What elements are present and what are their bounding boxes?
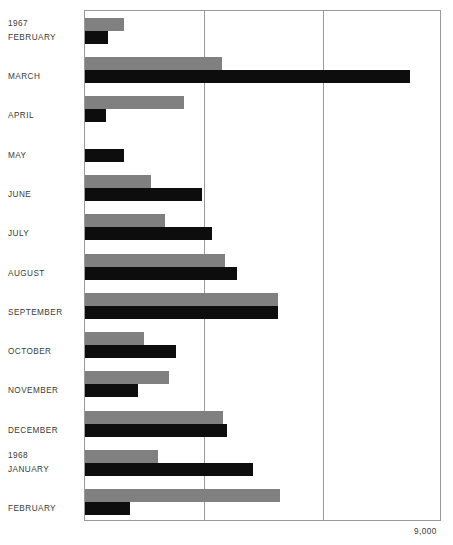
bar-february-gray [85, 489, 280, 502]
bar-april-gray [85, 96, 184, 109]
category-label-2: APRIL [8, 112, 84, 120]
bar-july-black [85, 227, 212, 240]
bar-october-gray [85, 332, 144, 345]
bar-may-black [85, 149, 124, 162]
gridline-6000 [323, 11, 324, 520]
bar-chart: FEBRUARYMARCHAPRILMAYJUNEJULYAUGUSTSEPTE… [0, 0, 453, 545]
bar-july-gray [85, 214, 165, 227]
bar-february-black [85, 502, 130, 515]
bar-november-black [85, 384, 138, 397]
bar-december-gray [85, 411, 223, 424]
bar-april-black [85, 109, 106, 122]
bar-june-gray [85, 175, 151, 188]
bar-october-black [85, 345, 176, 358]
category-label-7: SEPTEMBER [8, 309, 84, 317]
category-label-0: FEBRUARY [8, 34, 84, 42]
category-label-9: NOVEMBER [8, 387, 84, 395]
bar-january-gray [85, 450, 158, 463]
bar-september-black [85, 306, 278, 319]
plot-area [84, 10, 441, 521]
bar-march-black [85, 70, 410, 83]
category-label-5: JULY [8, 230, 84, 238]
category-label-column: FEBRUARYMARCHAPRILMAYJUNEJULYAUGUSTSEPTE… [0, 0, 84, 545]
bar-february-gray [85, 18, 124, 31]
category-label-10: DECEMBER [8, 427, 84, 435]
bar-august-gray [85, 254, 225, 267]
bar-march-gray [85, 57, 222, 70]
category-label-3: MAY [8, 152, 84, 160]
year-label-1968: 1968 [8, 452, 28, 460]
category-label-12: FEBRUARY [8, 505, 84, 513]
category-label-11: JANUARY [8, 466, 84, 474]
bar-june-black [85, 188, 202, 201]
bar-august-black [85, 267, 237, 280]
bar-september-gray [85, 293, 278, 306]
bar-november-gray [85, 371, 169, 384]
category-label-8: OCTOBER [8, 348, 84, 356]
bar-january-black [85, 463, 253, 476]
bar-december-black [85, 424, 227, 437]
category-label-4: JUNE [8, 191, 84, 199]
year-label-1967: 1967 [8, 20, 28, 28]
category-label-6: AUGUST [8, 270, 84, 278]
bar-february-black [85, 31, 108, 44]
category-label-1: MARCH [8, 73, 84, 81]
axis-max-label: 9,000 [414, 528, 437, 536]
